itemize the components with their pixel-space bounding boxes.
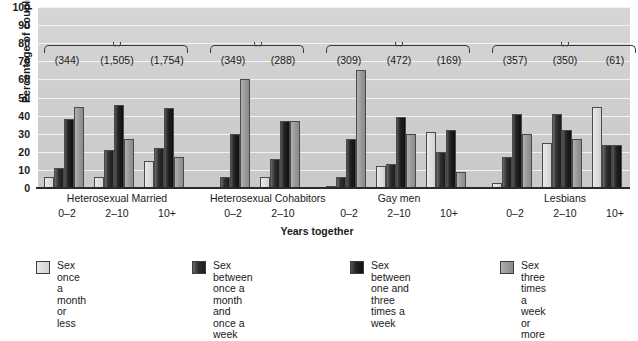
bar-series-0-cat-2 xyxy=(144,161,154,188)
bar-series-1-cat-6 xyxy=(386,164,396,188)
sample-size-label: (288) xyxy=(260,55,306,66)
x-tick-label: 2–10 xyxy=(542,207,588,219)
y-tick-label: 30 xyxy=(2,129,30,140)
gridline xyxy=(38,116,630,117)
y-tick-label: 80 xyxy=(2,38,30,49)
bar-series-3-cat-1 xyxy=(124,139,134,188)
y-tick-label: 100 xyxy=(2,2,30,13)
y-tick-label: 90 xyxy=(2,20,30,31)
sample-size-label: (344) xyxy=(44,55,90,66)
sample-size-label: (61) xyxy=(592,55,638,66)
bar-series-1-cat-2 xyxy=(154,148,164,188)
bar-series-1-cat-1 xyxy=(104,150,114,188)
sample-size-label: (357) xyxy=(492,55,538,66)
sample-size-label: (472) xyxy=(376,55,422,66)
gridline xyxy=(38,79,630,80)
y-tick-label: 50 xyxy=(2,93,30,104)
bar-series-2-cat-4 xyxy=(280,121,290,188)
legend-swatch-icon xyxy=(36,261,50,274)
bar-series-2-cat-0 xyxy=(64,119,74,188)
x-tick-label: 2–10 xyxy=(376,207,422,219)
x-group-label: Heterosexual Married xyxy=(44,192,190,204)
sample-size-label: (350) xyxy=(542,55,588,66)
x-group-label: Heterosexual Cohabitors xyxy=(210,192,306,204)
chart-legend: Sex once a month or lessSex between once… xyxy=(0,252,634,294)
x-axis-line xyxy=(36,187,630,189)
bar-series-1-cat-7 xyxy=(436,152,446,188)
sample-size-bracket xyxy=(44,45,188,53)
bar-series-2-cat-3 xyxy=(230,134,240,188)
bar-series-2-cat-7 xyxy=(446,130,456,188)
gridline xyxy=(38,134,630,135)
x-tick-label: 0–2 xyxy=(326,207,372,219)
plot-area xyxy=(38,7,630,188)
y-tick-label: 60 xyxy=(2,74,30,85)
sample-size-bracket xyxy=(210,45,304,53)
bar-series-0-cat-9 xyxy=(542,143,552,188)
legend-swatch-icon xyxy=(192,261,206,274)
x-group-label: Gay men xyxy=(326,192,472,204)
bar-series-3-cat-0 xyxy=(74,107,84,188)
legend-label: Sex between one and three times a week xyxy=(371,260,411,329)
bar-series-3-cat-8 xyxy=(522,134,532,188)
sample-size-label: (169) xyxy=(426,55,472,66)
legend-label: Sex three times a week or more xyxy=(521,260,546,341)
bar-series-1-cat-8 xyxy=(502,157,512,188)
bar-series-2-cat-1 xyxy=(114,105,124,188)
x-tick-label: 0–2 xyxy=(492,207,538,219)
gridline xyxy=(38,98,630,99)
bar-series-3-cat-3 xyxy=(240,79,250,188)
sample-size-label: (349) xyxy=(210,55,256,66)
bar-series-2-cat-5 xyxy=(346,139,356,188)
bar-series-3-cat-5 xyxy=(356,70,366,188)
bar-series-3-cat-4 xyxy=(290,121,300,188)
sample-size-label: (1,754) xyxy=(144,55,190,66)
gridline xyxy=(38,7,630,8)
bar-series-1-cat-0 xyxy=(54,168,64,188)
legend-label: Sex once a month or less xyxy=(57,260,86,329)
bar-series-3-cat-2 xyxy=(174,157,184,188)
bar-series-0-cat-6 xyxy=(376,166,386,188)
x-tick-label: 2–10 xyxy=(260,207,306,219)
y-tick-label: 40 xyxy=(2,111,30,122)
bar-series-2-cat-8 xyxy=(512,114,522,188)
y-tick-label: 20 xyxy=(2,147,30,158)
x-tick-label: 2–10 xyxy=(94,207,140,219)
bar-series-2-cat-10 xyxy=(612,145,622,188)
legend-swatch-icon xyxy=(350,261,364,274)
x-tick-label: 10+ xyxy=(592,207,638,219)
sample-size-bracket xyxy=(326,45,470,53)
gridline xyxy=(38,25,630,26)
bar-series-3-cat-7 xyxy=(456,172,466,188)
bar-series-1-cat-10 xyxy=(602,145,612,188)
x-tick-label: 10+ xyxy=(144,207,190,219)
bar-series-0-cat-7 xyxy=(426,132,436,188)
bar-series-1-cat-4 xyxy=(270,159,280,188)
legend-label: Sex between once a month and once a week xyxy=(213,260,253,341)
legend-swatch-icon xyxy=(500,261,514,274)
y-tick-label: 0 xyxy=(2,183,30,194)
y-tick-label: 10 xyxy=(2,165,30,176)
bar-series-1-cat-9 xyxy=(552,114,562,188)
x-tick-label: 0–2 xyxy=(44,207,90,219)
x-tick-label: 10+ xyxy=(426,207,472,219)
x-tick-label: 0–2 xyxy=(210,207,256,219)
bar-series-3-cat-6 xyxy=(406,134,416,188)
bar-series-3-cat-9 xyxy=(572,139,582,188)
sample-size-bracket xyxy=(492,45,636,53)
bar-series-2-cat-2 xyxy=(164,108,174,188)
x-group-label: Lesbians xyxy=(492,192,638,204)
bar-series-0-cat-10 xyxy=(592,107,602,188)
bar-series-2-cat-9 xyxy=(562,130,572,188)
sample-size-label: (1,505) xyxy=(94,55,140,66)
x-axis-title: Years together xyxy=(0,225,634,237)
sample-size-label: (309) xyxy=(326,55,372,66)
bar-series-2-cat-6 xyxy=(396,117,406,188)
y-axis-tick-labels: 0102030405060708090100 xyxy=(0,7,34,188)
y-tick-label: 70 xyxy=(2,56,30,67)
